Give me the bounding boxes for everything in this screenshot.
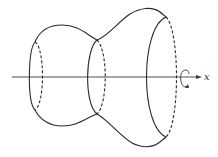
top-profile-curve (35, 8, 166, 42)
bottom-profile-curve (35, 110, 166, 147)
left-section-back (35, 42, 43, 110)
left-section-front (29, 42, 35, 110)
solid-of-revolution-figure: x (0, 0, 218, 157)
x-axis-arrowhead (196, 75, 202, 79)
x-axis-label: x (204, 71, 210, 82)
rotation-arrow-icon (181, 70, 189, 88)
diagram-canvas: x (0, 0, 218, 157)
